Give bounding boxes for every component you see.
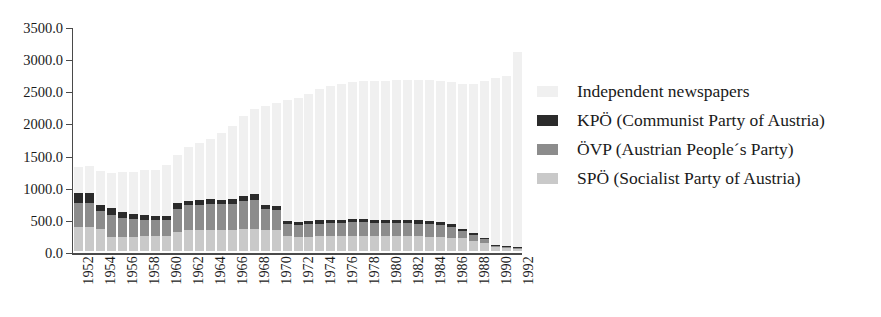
bar-segment-vp bbox=[436, 225, 445, 237]
bar-column bbox=[74, 167, 83, 251]
bar-segment-sp bbox=[315, 236, 324, 251]
y-axis-tick-label: 2000.0 bbox=[23, 117, 63, 132]
bar-segment-sp bbox=[403, 236, 412, 251]
bar-segment-kp bbox=[195, 200, 204, 205]
bar-column bbox=[469, 84, 478, 251]
bar-segment-kp bbox=[162, 216, 171, 220]
bar-segment-kp bbox=[469, 233, 478, 235]
bar-segment-vp bbox=[491, 246, 500, 248]
bar-segment-independent bbox=[304, 94, 313, 222]
bar-segment-vp bbox=[107, 215, 116, 237]
bar-segment-independent bbox=[140, 170, 149, 215]
bar-segment-independent bbox=[239, 116, 248, 196]
bar-segment-sp bbox=[195, 230, 204, 251]
bar-segment-sp bbox=[162, 236, 171, 251]
bar-segment-kp bbox=[206, 199, 215, 204]
y-axis-tick-mark bbox=[66, 221, 72, 222]
bar-segment-sp bbox=[458, 238, 467, 251]
bar-segment-kp bbox=[480, 238, 489, 240]
bar-segment-sp bbox=[250, 229, 259, 252]
bar-segment-vp bbox=[228, 204, 237, 230]
legend-item-label: KPÖ (Communist Party of Austria) bbox=[577, 112, 825, 130]
legend-item[interactable]: KPÖ (Communist Party of Austria) bbox=[537, 106, 877, 135]
bar-segment-kp bbox=[283, 221, 292, 224]
bar-segment-sp bbox=[129, 237, 138, 251]
bar-segment-kp bbox=[458, 229, 467, 231]
bar-column bbox=[392, 80, 401, 251]
bar-segment-kp bbox=[140, 215, 149, 220]
bar-segment-independent bbox=[447, 82, 456, 224]
bar-segment-sp bbox=[392, 236, 401, 251]
bar-segment-vp bbox=[151, 220, 160, 236]
bar-segment-sp bbox=[294, 237, 303, 251]
bar-segment-sp bbox=[513, 249, 522, 251]
bar-segment-independent bbox=[151, 170, 160, 216]
y-axis-tick-mark bbox=[66, 253, 72, 254]
bar-segment-vp bbox=[140, 220, 149, 236]
bar-segment-vp bbox=[85, 203, 94, 227]
bar-segment-kp bbox=[326, 220, 335, 223]
bar-segment-kp bbox=[261, 205, 270, 209]
bar-segment-vp bbox=[348, 222, 357, 235]
bar-segment-sp bbox=[469, 241, 478, 251]
bar-segment-independent bbox=[348, 82, 357, 219]
bar-segment-kp bbox=[491, 245, 500, 246]
x-axis-tick-label: 1986 bbox=[456, 256, 470, 285]
x-axis-tick-label: 1960 bbox=[170, 256, 184, 285]
legend-item[interactable]: SPÖ (Socialist Party of Austria) bbox=[537, 164, 877, 193]
bar-column bbox=[217, 133, 226, 251]
bar-column bbox=[96, 171, 105, 251]
bar-segment-kp bbox=[513, 247, 522, 248]
y-axis-tick-mark bbox=[66, 189, 72, 190]
bar-column bbox=[480, 81, 489, 251]
bar-column bbox=[436, 81, 445, 251]
bar-column bbox=[283, 100, 292, 251]
bar-segment-independent bbox=[425, 80, 434, 221]
bar-segment-sp bbox=[96, 229, 105, 251]
bar-column bbox=[162, 165, 171, 251]
y-axis-tick-label: 3000.0 bbox=[23, 53, 63, 68]
bar-column bbox=[250, 109, 259, 251]
x-axis-tick-label: 1968 bbox=[258, 256, 272, 285]
legend-item[interactable]: ÖVP (Austrian People´s Party) bbox=[537, 135, 877, 164]
bar-segment-independent bbox=[458, 84, 467, 229]
bar-segment-vp bbox=[513, 247, 522, 248]
legend-swatch-icon bbox=[537, 86, 558, 97]
bar-segment-vp bbox=[425, 224, 434, 236]
x-axis-tick-label: 1976 bbox=[346, 256, 360, 285]
bar-column bbox=[403, 80, 412, 251]
bar-column bbox=[294, 98, 303, 251]
bar-segment-vp bbox=[294, 225, 303, 237]
bar-segment-kp bbox=[359, 219, 368, 222]
y-axis-tick-label: 500.0 bbox=[30, 214, 63, 229]
x-axis-line bbox=[72, 253, 522, 255]
x-axis-tick-label: 1958 bbox=[148, 256, 162, 285]
bar-segment-independent bbox=[217, 133, 226, 200]
y-axis-tick-mark bbox=[66, 60, 72, 61]
x-axis-tick-label: 1970 bbox=[280, 256, 294, 285]
bar-segment-independent bbox=[370, 81, 379, 220]
legend-item[interactable]: Independent newspapers bbox=[537, 77, 877, 106]
chart-legend: Independent newspapersKPÖ (Communist Par… bbox=[537, 77, 877, 193]
bar-segment-sp bbox=[337, 236, 346, 251]
bar-column bbox=[425, 80, 434, 251]
bar-segment-sp bbox=[173, 232, 182, 251]
x-axis-labels: 1952195419561958196019621964196619681970… bbox=[72, 256, 524, 314]
y-axis-tick-mark bbox=[66, 124, 72, 125]
bar-segment-sp bbox=[304, 237, 313, 251]
bar-segment-kp bbox=[129, 214, 138, 219]
x-axis-tick-label: 1978 bbox=[368, 256, 382, 285]
bar-segment-kp bbox=[272, 206, 281, 210]
bar-segment-sp bbox=[425, 237, 434, 251]
bar-column bbox=[458, 84, 467, 251]
bar-segment-sp bbox=[359, 236, 368, 251]
bar-segment-vp bbox=[250, 200, 259, 229]
bar-segment-independent bbox=[118, 172, 127, 212]
bar-segment-kp bbox=[85, 193, 94, 203]
x-axis-tick-label: 1992 bbox=[522, 256, 536, 285]
stacked-bar-chart-figure: 0.0500.01000.01500.02000.02500.03000.035… bbox=[0, 0, 881, 317]
bar-segment-vp bbox=[370, 223, 379, 236]
bar-segment-kp bbox=[414, 220, 423, 223]
bar-segment-independent bbox=[272, 103, 281, 206]
bar-segment-independent bbox=[491, 78, 500, 245]
